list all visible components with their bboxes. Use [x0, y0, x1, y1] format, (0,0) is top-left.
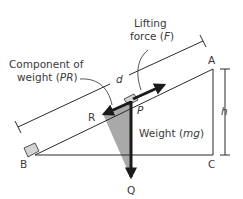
point-label-B: B — [20, 158, 27, 170]
component-label-line2: weight (PR) — [17, 71, 78, 83]
point-label-P: P — [137, 104, 144, 116]
distance-line-d-lower — [18, 84, 110, 127]
distance-tick-lower — [15, 121, 21, 133]
distance-label-d: d — [116, 73, 123, 85]
height-label-h: h — [221, 105, 228, 117]
distance-line-d-upper — [129, 41, 203, 75]
distance-tick-upper — [200, 35, 206, 47]
point-label-R: R — [88, 111, 95, 123]
lifting-force-label-line2: force (F) — [130, 30, 174, 42]
point-label-A: A — [208, 54, 216, 66]
point-label-C: C — [208, 158, 215, 170]
lifting-force-label-line1: Lifting — [134, 17, 167, 29]
component-leader — [80, 79, 112, 105]
point-label-Q: Q — [127, 184, 135, 196]
inclined-plane-diagram: Lifting force (F) Component of weight (P… — [0, 0, 243, 199]
lifting-force-arrow — [133, 85, 164, 99]
weight-label: Weight (mg) — [139, 127, 204, 139]
component-label-line1: Component of — [9, 58, 84, 70]
